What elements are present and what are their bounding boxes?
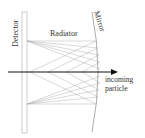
upper-ray-fan (27, 41, 100, 72)
incoming-particle-label-line1: incoming (105, 75, 134, 84)
incoming-particle-label-line2: particle (105, 84, 128, 93)
lower-ray-fan (27, 72, 100, 104)
rich-detector-diagram: Detector Mirror Radiator incoming par (0, 0, 145, 138)
mirror-label: Mirror (92, 10, 107, 33)
particle-track-arrow (8, 69, 118, 75)
radiator-label: Radiator (50, 29, 78, 38)
detector-label: Detector (11, 19, 20, 47)
